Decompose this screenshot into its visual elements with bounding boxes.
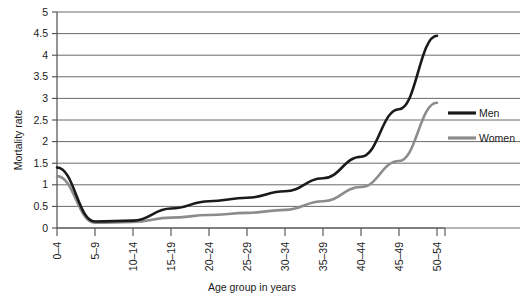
x-axis-tick-label: 15–19 [165,242,177,271]
y-axis-tick-label: 0 [42,222,48,234]
x-axis-tick-label: 20–24 [203,242,215,271]
y-axis-tick-label: 0.5 [33,200,48,212]
x-axis-tick-label: 10–14 [127,242,139,271]
y-axis-tick-label: 2 [42,135,48,147]
x-axis-tick-label: 35–39 [317,242,329,271]
x-axis-tick-label: 5–9 [89,242,101,260]
legend-label-men: Men [479,107,500,119]
y-axis-tick-label: 4.5 [33,27,48,39]
chart-canvas: 00.511.522.533.544.55 0–45–910–1415–1920… [0,0,527,297]
y-axis-tick-label: 1 [42,178,48,190]
y-axis-title: Mortality rate [12,110,24,171]
y-axis-tick-label: 2.5 [33,114,48,126]
y-axis-tick-label: 1.5 [33,157,48,169]
legend-label-women: Women [479,132,515,144]
y-axis-tick-label: 3.5 [33,70,48,82]
mortality-rate-line-chart: 00.511.522.533.544.55 0–45–910–1415–1920… [0,0,527,297]
y-axis-tick-label: 4 [42,49,48,61]
x-axis-title: Age group in years [208,281,296,293]
y-axis-tick-label: 3 [42,92,48,104]
x-axis-tick-label: 50–54 [431,242,443,271]
x-axis-tick-label: 30–34 [279,242,291,271]
x-axis-tick-label: 0–4 [51,242,63,260]
x-axis-tick-label: 45–49 [393,242,405,271]
x-axis-tick-label: 25–29 [241,242,253,271]
x-axis-tick-label: 40–44 [355,242,367,271]
chart-background [0,0,527,297]
y-axis-tick-label: 5 [42,6,48,18]
